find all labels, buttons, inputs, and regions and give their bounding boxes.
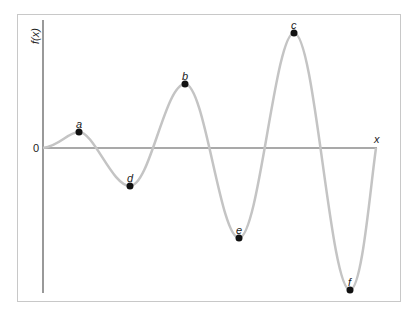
x-axis-label: x (374, 134, 380, 145)
label-b: b (182, 71, 188, 82)
label-f: f (348, 277, 351, 288)
plot-svg (0, 0, 414, 315)
function-curve (43, 33, 376, 290)
label-d: d (127, 173, 133, 184)
label-e: e (236, 225, 242, 236)
label-c: c (291, 20, 297, 31)
label-a: a (76, 119, 82, 130)
origin-label: 0 (33, 142, 39, 154)
y-axis-label: f(x) (29, 28, 41, 44)
